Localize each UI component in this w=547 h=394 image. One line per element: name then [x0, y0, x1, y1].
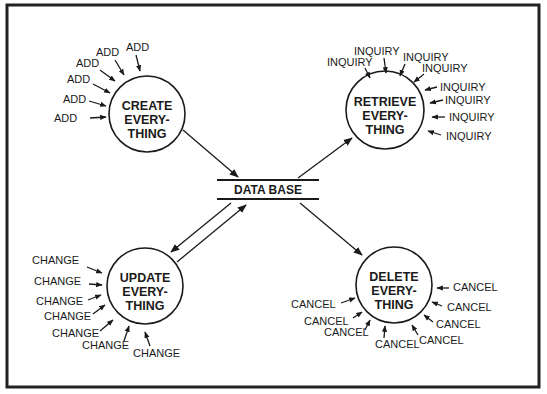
input-label-add: ADD [96, 46, 119, 58]
input-arrow-icon [430, 100, 443, 103]
input-label-inquiry: INQUIRY [445, 94, 491, 106]
process-create-everything: CREATE EVERY- THING [109, 76, 185, 152]
input-arrow-icon [432, 302, 442, 306]
input-label-change: CHANGE [32, 254, 79, 266]
datastore-label: DATA BASE [234, 183, 302, 197]
input-arrow-icon [89, 101, 106, 106]
input-label-cancel: CANCEL [304, 315, 349, 327]
input-label-add: ADD [76, 57, 99, 69]
input-label-inquiry: INQUIRY [446, 130, 492, 142]
input-arrow-icon [100, 70, 115, 81]
input-label-cancel: CANCEL [419, 334, 464, 346]
input-label-inquiry: INQUIRY [422, 62, 468, 74]
flow-update-to-db-arrow-icon [177, 205, 246, 262]
process-delete-everything: DELETE EVERY- THING [356, 247, 432, 323]
input-label-cancel: CANCEL [453, 281, 498, 293]
input-arrow-icon [412, 325, 418, 335]
input-arrow-icon [400, 64, 405, 76]
input-arrow-icon [145, 332, 150, 346]
input-label-change: CHANGE [52, 327, 99, 339]
process-label-line: THING [128, 127, 167, 141]
input-label-change: CHANGE [36, 295, 83, 307]
process-label-line: UPDATE [120, 271, 170, 285]
input-label-add: ADD [67, 73, 90, 85]
input-label-inquiry: INQUIRY [327, 56, 373, 68]
input-arrow-icon [425, 87, 437, 90]
data-store-database: DATA BASE [217, 180, 319, 199]
input-label-change: CHANGE [34, 275, 81, 287]
input-label-inquiry: INQUIRY [354, 45, 400, 57]
process-retrieve-everything: RETRIEVE EVERY- THING [346, 71, 424, 149]
input-label-add: ADD [126, 41, 149, 53]
process-label-line: THING [126, 299, 165, 313]
input-label-inquiry: INQUIRY [440, 81, 486, 93]
process-label-line: THING [375, 298, 414, 312]
input-arrow-icon [428, 131, 441, 135]
input-label-add: ADD [54, 112, 77, 124]
process-label-line: THING [366, 123, 405, 137]
input-arrow-icon [93, 84, 110, 93]
input-label-add: ADD [63, 93, 86, 105]
input-arrow-icon [353, 312, 362, 318]
input-arrow-icon [89, 284, 102, 285]
process-label-line: CREATE [122, 99, 172, 113]
input-arrow-icon [384, 326, 385, 338]
input-label-cancel: CANCEL [324, 326, 369, 338]
flow-create-to-db-arrow-icon [183, 130, 238, 177]
input-arrow-icon [136, 55, 140, 71]
process-label-line: EVERY- [122, 285, 167, 299]
input-label-cancel: CANCEL [375, 338, 420, 350]
data-flow-diagram: DATA BASE CREATE EVERY- THING ADD ADD AD… [0, 0, 547, 394]
process-update-everything: UPDATE EVERY- THING [107, 248, 183, 324]
input-label-change: CHANGE [82, 339, 129, 351]
input-arrow-icon [87, 267, 102, 273]
process-label-line: EVERY- [371, 284, 416, 298]
input-label-cancel: CANCEL [447, 301, 492, 313]
process-label-line: EVERY- [362, 109, 407, 123]
input-label-cancel: CANCEL [436, 318, 481, 330]
process-label-line: EVERY- [124, 113, 169, 127]
input-label-change: CHANGE [133, 347, 180, 359]
flow-db-to-update-arrow-icon [171, 203, 231, 252]
process-label-line: RETRIEVE [354, 95, 417, 109]
input-label-change: CHANGE [44, 310, 91, 322]
input-arrow-icon [90, 117, 106, 118]
flow-db-to-delete-arrow-icon [300, 203, 362, 255]
process-label-line: DELETE [369, 270, 418, 284]
flow-db-to-retrieve-arrow-icon [298, 138, 352, 178]
input-arrow-icon [424, 315, 433, 322]
input-arrow-icon [414, 74, 424, 82]
input-label-cancel: CANCEL [291, 298, 336, 310]
input-arrow-icon [115, 60, 124, 75]
input-arrow-icon [88, 295, 101, 300]
input-label-inquiry: INQUIRY [449, 111, 495, 123]
input-arrow-icon [341, 298, 355, 303]
input-arrow-icon [93, 305, 105, 314]
input-arrow-icon [100, 320, 113, 331]
